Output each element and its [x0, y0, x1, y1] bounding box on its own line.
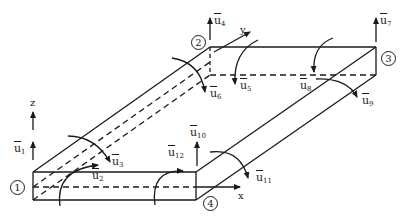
dof-u10-label: u10 [190, 127, 206, 140]
dof-u8-arrow [314, 38, 333, 72]
x-axis-label: x [238, 190, 244, 201]
dof-u5-label: u5 [240, 80, 252, 93]
node-2: 2 [191, 35, 206, 50]
node-4: 4 [203, 196, 218, 211]
frame-diagram [0, 0, 408, 224]
y-axis-label: y [240, 24, 246, 35]
member-1-2 [33, 47, 210, 200]
dof-u7-label: u7 [380, 15, 392, 28]
dof-u2-label: u2 [92, 170, 104, 183]
dof-u9-arrow [316, 79, 357, 97]
member-1-4 [33, 172, 196, 200]
dof-u4-label: u4 [214, 15, 226, 28]
dof-u9-label: u9 [362, 95, 374, 108]
node-1: 1 [10, 180, 25, 195]
dof-u11-arrow [210, 152, 248, 178]
z-axis-label: z [30, 97, 35, 108]
dof-u11-label: u11 [256, 172, 272, 185]
dof-u12-label: u12 [168, 147, 184, 160]
dof-u8-label: u8 [300, 80, 312, 93]
dof-u6-arrow [172, 58, 205, 92]
dof-u3-label: u3 [112, 156, 124, 169]
node-3: 3 [381, 51, 396, 66]
dof-u6-label: u6 [210, 88, 222, 101]
member-4-3 [196, 47, 376, 200]
dof-u1-label: u1 [14, 143, 26, 156]
